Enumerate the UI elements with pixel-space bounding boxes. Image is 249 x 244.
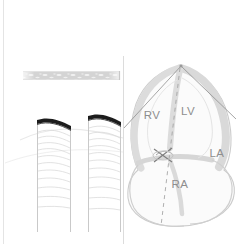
vessel-left [37, 118, 71, 232]
vessel-left-striations [38, 130, 70, 208]
cardiac-figure-svg: RV LV LA RA [0, 0, 249, 244]
label-left-atrium: LA [210, 147, 225, 159]
apex-point [179, 64, 182, 67]
label-right-atrium: RA [172, 178, 189, 190]
background-arc [20, 129, 123, 140]
vessel-right-striations [89, 126, 120, 210]
vessel-right [88, 114, 121, 232]
tissue-band [23, 71, 120, 80]
label-left-ventricle: LV [181, 105, 195, 117]
vessel-panel [4, 0, 124, 244]
heart-diagram: RV LV LA RA [124, 64, 236, 226]
figure-root: RV LV LA RA [0, 0, 249, 244]
label-right-ventricle: RV [144, 109, 161, 121]
